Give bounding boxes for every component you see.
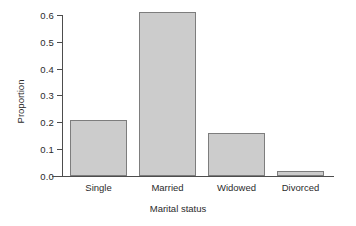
bar-chart: Proportion 0.6 0.5 0.4 0.3 0.2 0.1 0.0 S… [0, 0, 356, 226]
y-tick-label: 0.6 [40, 10, 54, 21]
y-tick-label: 0.5 [40, 37, 54, 48]
y-tick-label: 0.1 [40, 144, 54, 155]
x-axis-title: Marital status [0, 203, 356, 214]
y-axis-title: Proportion [15, 47, 26, 157]
y-tick-mark [57, 69, 62, 70]
x-tick-label-married: Married [151, 182, 183, 193]
x-tick-label-single: Single [85, 182, 111, 193]
y-tick-mark [57, 95, 62, 96]
x-tick-label-widowed: Widowed [217, 182, 256, 193]
y-tick-mark [57, 149, 62, 150]
bar-divorced [277, 171, 324, 176]
x-tick-label-divorced: Divorced [282, 182, 320, 193]
y-tick-mark [57, 42, 62, 43]
y-tick-label: 0.3 [40, 90, 54, 101]
x-axis-line [52, 176, 334, 177]
y-tick-label: 0.4 [40, 64, 54, 75]
y-tick-mark [57, 122, 62, 123]
bar-widowed [208, 133, 265, 176]
y-tick-label: 0.2 [40, 117, 54, 128]
y-tick-mark [57, 15, 62, 16]
bar-single [70, 120, 127, 176]
bar-married [139, 12, 196, 176]
y-axis-line [62, 15, 63, 177]
